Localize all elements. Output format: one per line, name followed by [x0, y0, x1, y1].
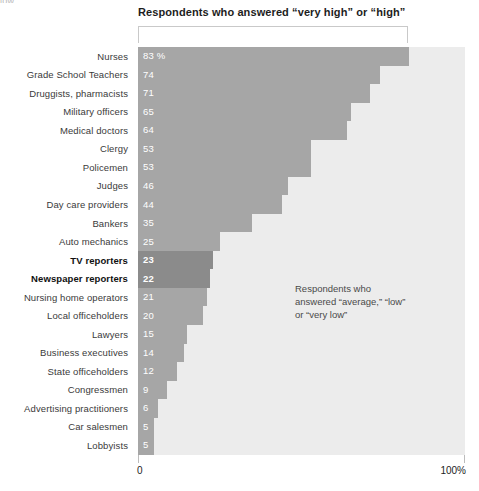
annotation-line-1: Respondents who	[295, 282, 445, 295]
category-label: Newspaper reporters	[0, 269, 133, 288]
bar: 6	[138, 399, 158, 418]
bar: 53	[138, 140, 311, 159]
bar: 20	[138, 306, 203, 325]
bar-value-label: 21	[143, 292, 154, 302]
bar: 14	[138, 344, 184, 363]
annotation-line-2: answered “average,” “low”	[295, 295, 445, 308]
bar-value-label: 23	[143, 255, 154, 265]
chart-title: Respondents who answered “very high” or …	[138, 6, 405, 18]
chart-row: 5	[138, 418, 465, 437]
bar-value-label: 83 %	[143, 52, 165, 62]
x-axis: 0 100%	[138, 455, 465, 485]
bar-value-label: 9	[143, 385, 148, 395]
category-label: Advertising practitioners	[0, 399, 133, 418]
chart-row: 6	[138, 399, 465, 418]
category-label: Congressmen	[0, 381, 133, 400]
bar: 15	[138, 325, 187, 344]
bar: 22	[138, 269, 210, 288]
bar: 23	[138, 251, 213, 270]
chart-row: 74	[138, 66, 465, 85]
chart-row: 44	[138, 195, 465, 214]
title-bracket	[138, 26, 408, 43]
chart-row: 14	[138, 344, 465, 363]
bar: 44	[138, 195, 282, 214]
category-label: Bankers	[0, 214, 133, 233]
axis-label-max: 100%	[440, 465, 466, 476]
category-label: Local officeholders	[0, 306, 133, 325]
bar: 9	[138, 381, 167, 400]
category-label: Day care providers	[0, 195, 133, 214]
chart-row: 46	[138, 177, 465, 196]
axis-label-min: 0	[137, 465, 143, 476]
bar: 35	[138, 214, 252, 233]
bar-value-label: 74	[143, 70, 154, 80]
category-label: State officeholders	[0, 362, 133, 381]
chart-row: 25	[138, 232, 465, 251]
bar-value-label: 53	[143, 163, 154, 173]
bar-value-label: 44	[143, 200, 154, 210]
axis-tick-0	[138, 455, 139, 463]
bar: 5	[138, 436, 154, 455]
chart-row: 53	[138, 140, 465, 159]
category-label: Grade School Teachers	[0, 66, 133, 85]
bar: 64	[138, 121, 347, 140]
category-label: Nurses	[0, 47, 133, 66]
bar-value-label: 15	[143, 329, 154, 339]
chart-row: 23	[138, 251, 465, 270]
chart-row: 53	[138, 158, 465, 177]
category-label: Medical doctors	[0, 121, 133, 140]
plot-area: 83 %747165645353464435252322212015141296…	[138, 47, 465, 455]
category-label: Military officers	[0, 103, 133, 122]
bar-value-label: 5	[143, 441, 148, 451]
bar-value-label: 65	[143, 107, 154, 117]
bar-value-label: 64	[143, 126, 154, 136]
chart-row: 65	[138, 103, 465, 122]
category-label: Clergy	[0, 140, 133, 159]
bar: 83 %	[138, 47, 409, 66]
remainder-annotation: Respondents who answered “average,” “low…	[295, 282, 445, 321]
category-label: Lobbyists	[0, 436, 133, 455]
bar: 53	[138, 158, 311, 177]
bar-value-label: 71	[143, 89, 154, 99]
bar-value-label: 20	[143, 311, 154, 321]
axis-tick-100	[464, 455, 465, 463]
category-label: Car salesmen	[0, 418, 133, 437]
category-label: Business executives	[0, 344, 133, 363]
bar-value-label: 35	[143, 218, 154, 228]
category-label: Judges	[0, 177, 133, 196]
bar: 5	[138, 418, 154, 437]
bar-value-label: 14	[143, 348, 154, 358]
category-label: Lawyers	[0, 325, 133, 344]
category-label-column: NursesGrade School TeachersDruggists, ph…	[0, 47, 133, 455]
bar-value-label: 53	[143, 144, 154, 154]
chart-row: 9	[138, 381, 465, 400]
bar: 65	[138, 103, 351, 122]
chart-row: 5	[138, 436, 465, 455]
chart-row: 12	[138, 362, 465, 381]
category-label: TV reporters	[0, 251, 133, 270]
bar-value-label: 22	[143, 274, 154, 284]
annotation-line-3: or “very low”	[295, 308, 445, 321]
chart-row: 35	[138, 214, 465, 233]
bar-value-label: 25	[143, 237, 154, 247]
bar: 25	[138, 232, 220, 251]
category-label: Policemen	[0, 158, 133, 177]
clipped-top-text: low.	[0, 0, 16, 3]
bar-value-label: 46	[143, 181, 154, 191]
category-label: Nursing home operators	[0, 288, 133, 307]
chart-row: 83 %	[138, 47, 465, 66]
bar-value-label: 5	[143, 422, 148, 432]
bar-value-label: 12	[143, 367, 154, 377]
bar-value-label: 6	[143, 404, 148, 414]
bar: 21	[138, 288, 207, 307]
category-label: Auto mechanics	[0, 232, 133, 251]
bar: 74	[138, 66, 380, 85]
bar: 12	[138, 362, 177, 381]
category-label: Druggists, pharmacists	[0, 84, 133, 103]
bar: 46	[138, 177, 288, 196]
chart-row: 15	[138, 325, 465, 344]
bar: 71	[138, 84, 370, 103]
chart-row: 64	[138, 121, 465, 140]
chart-row: 71	[138, 84, 465, 103]
